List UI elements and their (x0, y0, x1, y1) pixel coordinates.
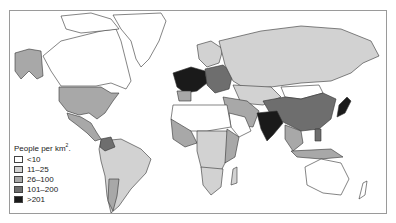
map-legend: People per km2. <10 11–25 26–100 101–200… (14, 140, 114, 205)
region-indonesia (291, 149, 343, 159)
region-madagascar (231, 167, 237, 185)
region-new-zealand (359, 181, 367, 199)
region-iberia (177, 91, 191, 101)
region-canada (43, 29, 131, 89)
legend-item-26-100: 26–100 (14, 175, 114, 185)
region-australia (305, 159, 349, 195)
region-western-europe (173, 67, 207, 93)
legend-item-gt201: >201 (14, 195, 114, 205)
region-philippines (315, 129, 321, 141)
region-japan (337, 97, 351, 117)
legend-title: People per km2. (14, 140, 114, 154)
region-india (257, 111, 283, 141)
region-arctic-islands (61, 13, 119, 33)
map-frame: People per km2. <10 11–25 26–100 101–200… (9, 10, 387, 214)
region-russia (219, 26, 379, 89)
legend-swatch (14, 186, 23, 193)
region-alaska (15, 49, 43, 79)
legend-item-101-200: 101–200 (14, 185, 114, 195)
legend-swatch (14, 156, 23, 163)
region-scandinavia (197, 41, 223, 67)
legend-item-lt10: <10 (14, 155, 114, 165)
region-southern-africa (201, 167, 223, 195)
legend-swatch (14, 196, 23, 203)
legend-item-11-25: 11–25 (14, 165, 114, 175)
legend-swatch (14, 166, 23, 173)
legend-swatch (14, 176, 23, 183)
